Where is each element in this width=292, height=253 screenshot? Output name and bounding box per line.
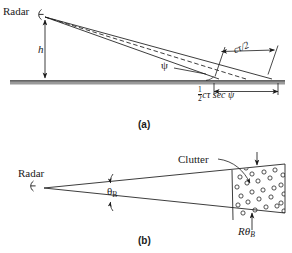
clutter-label: Clutter xyxy=(178,154,209,165)
radar-label-b: Radar xyxy=(18,168,44,179)
beamwidth-arrow-lower xyxy=(110,202,113,211)
beam-edge-lower-b xyxy=(44,188,285,213)
height-label-h: h xyxy=(38,44,44,55)
radar-antenna-icon-a xyxy=(39,10,44,20)
cross-range-label-sub: B xyxy=(250,230,255,239)
cross-range-label-base: Rθ xyxy=(238,225,250,237)
cross-range-label: RθB xyxy=(238,226,255,239)
radar-clutter-figure: Radar h ψ cτ/2 1 2 cτ sec ψ (a) Radar θB… xyxy=(0,0,292,253)
panel-b-graphics xyxy=(31,152,286,230)
clutter-leader-line xyxy=(218,159,250,183)
grazing-angle-label-psi: ψ xyxy=(161,60,168,71)
beam-edge-lower-a xyxy=(45,17,219,79)
beamwidth-label: θB xyxy=(107,186,117,199)
clutter-cell-near-face xyxy=(232,170,233,220)
caption-b: (b) xyxy=(138,236,151,246)
radar-antenna-icon-b xyxy=(31,181,36,191)
clutter-scatterers xyxy=(235,166,286,215)
ground-line-a xyxy=(10,80,285,84)
ground-patch-label-rest: cτ sec ψ xyxy=(202,89,234,100)
radar-label-a: Radar xyxy=(3,6,29,17)
beam-centerline-a xyxy=(45,17,246,79)
caption-a: (a) xyxy=(138,120,150,130)
panel-a-graphics xyxy=(10,10,285,96)
grazing-angle-arc-psi xyxy=(206,77,214,81)
beamwidth-label-sub: B xyxy=(112,190,117,199)
ground-patch-label: 1 2 cτ sec ψ xyxy=(198,86,234,102)
